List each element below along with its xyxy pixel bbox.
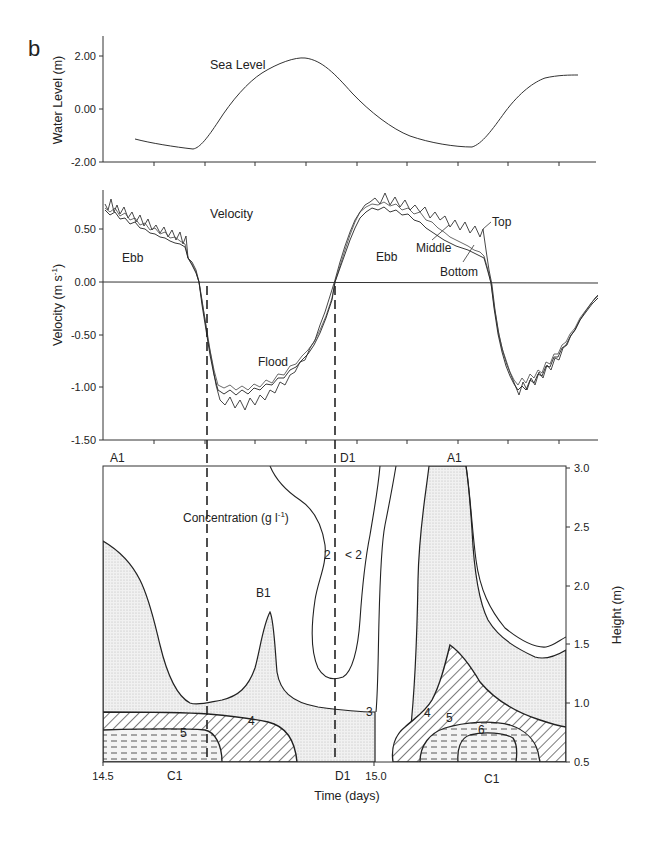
sea-ytick-2: 2.00 xyxy=(75,50,96,62)
velocity-top-curve xyxy=(105,193,598,410)
marker-c1-left: C1 xyxy=(167,769,183,783)
contour-label-6: 6 xyxy=(478,723,485,737)
h-tick-10: 1.0 xyxy=(574,697,589,709)
concentration-panel: 3.0 2.5 2.0 1.5 1.0 0.5 Height (m) 14.5 … xyxy=(92,451,624,803)
bottom-series-label: Bottom xyxy=(440,265,478,279)
sea-level-panel: 2.00 0.00 -2.00 Water Level (m) Sea Leve… xyxy=(51,36,596,168)
vel-ytick-m100: -1.00 xyxy=(71,381,96,393)
vel-ytick-050: 0.50 xyxy=(75,223,96,235)
sea-x-ticks xyxy=(99,56,559,166)
marker-a1-left: A1 xyxy=(110,451,125,465)
middle-series-label: Middle xyxy=(416,241,452,255)
marker-a1-right: A1 xyxy=(447,451,462,465)
contour-label-3: 3 xyxy=(366,705,373,719)
contour-label-5-right: 5 xyxy=(446,711,453,725)
vel-ticks xyxy=(99,229,559,444)
velocity-panel: 0.50 0.00 -0.50 -1.00 -1.50 Velocity (m … xyxy=(50,190,598,446)
vel-ytick-000: 0.00 xyxy=(75,276,96,288)
marker-d1-top: D1 xyxy=(340,451,356,465)
h-tick-25: 2.5 xyxy=(574,521,589,533)
contour-label-lt2: < 2 xyxy=(345,548,362,562)
sea-title: Sea Level xyxy=(210,58,266,72)
marker-c1-right: C1 xyxy=(484,772,500,786)
ebb-label-1: Ebb xyxy=(122,251,144,265)
contour-label-4-left: 4 xyxy=(248,714,255,728)
h-tick-20: 2.0 xyxy=(574,580,589,592)
sea-level-curve xyxy=(135,58,578,149)
marker-b1: B1 xyxy=(256,586,271,600)
flood-label: Flood xyxy=(258,355,288,369)
contour-label-5-left: 5 xyxy=(180,726,187,740)
velocity-bottom-curve xyxy=(105,207,598,395)
h-tick-30: 3.0 xyxy=(574,462,589,474)
x-tick-150: 15.0 xyxy=(365,770,386,782)
x-tick-145: 14.5 xyxy=(92,770,113,782)
x-axis-title: Time (days) xyxy=(314,789,380,803)
height-axis-label: Height (m) xyxy=(610,586,624,644)
vel-title: Velocity xyxy=(210,207,254,221)
sea-y-label: Water Level (m) xyxy=(51,56,65,144)
sea-ytick-m2: -2.00 xyxy=(71,156,96,168)
concentration-title: Concentration (g l-1) xyxy=(183,510,289,525)
h-tick-05: 0.5 xyxy=(574,756,589,768)
panel-label: b xyxy=(28,36,40,61)
vel-zero-line xyxy=(103,282,598,283)
figure-canvas: b 2.00 0.00 -2.00 Water Level (m) Sea Le… xyxy=(0,0,656,843)
dashed-region-left xyxy=(103,729,222,762)
sea-ytick-0: 0.00 xyxy=(75,103,96,115)
top-series-label: Top xyxy=(492,215,512,229)
vel-ytick-m050: -0.50 xyxy=(71,329,96,341)
vel-ytick-m150: -1.50 xyxy=(71,434,96,446)
vel-y-label: Velocity (m s-1) xyxy=(50,264,65,346)
h-tick-15: 1.5 xyxy=(574,638,589,650)
contour-label-2: 2 xyxy=(324,548,331,562)
marker-d1-bottom: D1 xyxy=(335,769,351,783)
ebb-label-2: Ebb xyxy=(376,250,398,264)
contour-label-4-right: 4 xyxy=(424,706,431,720)
velocity-middle-curve xyxy=(105,202,598,390)
